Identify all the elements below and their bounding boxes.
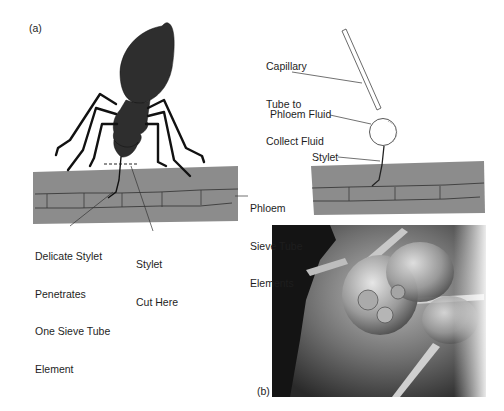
phloem-fluid-droplet (370, 119, 397, 146)
label-phloem-sieve-tube: Phloem Sieve Tube Elements (250, 177, 303, 302)
panel-b-label: (b) (257, 385, 270, 398)
leader-phloem-fluid (330, 115, 371, 124)
phloem-tissue-left (33, 166, 238, 224)
capillary-tube (342, 29, 381, 110)
label-stylet-right: Stylet (312, 151, 338, 164)
panel-a-label: (a) (29, 22, 42, 35)
label-capillary-tube: Capillary Tube to Collect Fluid (266, 35, 324, 160)
label-delicate-stylet: Delicate Stylet Penetrates One Sieve Tub… (35, 225, 110, 388)
aphid-silhouette (113, 23, 174, 157)
label-phloem-fluid: Phloem Fluid (270, 108, 331, 121)
leader-stylet-right (338, 157, 380, 161)
phloem-tissue-right (311, 161, 485, 215)
sem-micrograph (272, 225, 486, 397)
label-stylet-cut-here: Stylet Cut Here (136, 233, 178, 321)
